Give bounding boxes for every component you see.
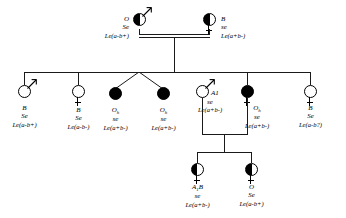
symbol-open-circle: [196, 85, 209, 98]
sibling-drop-g3-2: [251, 152, 252, 163]
sibling-drop-6: [247, 72, 248, 85]
symbol-half-filled-circle: [133, 13, 146, 26]
label-g1-father: O Se Le(a-b+): [88, 15, 129, 40]
person-g2-child-7[interactable]: [304, 85, 317, 98]
label-g2-child-5: se Le(a+b-): [184, 98, 236, 115]
symbol-filled-circle: [241, 85, 254, 98]
mating-drop-g2-male: [202, 98, 203, 135]
person-g2-child-1[interactable]: [18, 85, 31, 98]
symbol-half-filled-circle: [191, 163, 204, 176]
person-g1-mother[interactable]: [203, 13, 216, 26]
label-g3-child-1: A1B se Le(a+b-): [173, 183, 222, 209]
label-g3-child-2: O Se Le(a-b+): [227, 183, 276, 208]
mating-line-g2: [202, 134, 248, 135]
label-g2-child-7: B Se Le(a-b?): [286, 104, 335, 129]
person-g2-child-6[interactable]: [241, 85, 254, 98]
person-g3-child-1[interactable]: [191, 163, 204, 176]
descent-line-g1: [174, 37, 175, 72]
sibling-drop-1: [24, 72, 25, 85]
symbol-filled-circle: [109, 87, 122, 100]
label-g1-mother: B se Le(a+b-): [221, 15, 267, 40]
person-g2-child-3[interactable]: [109, 87, 122, 100]
symbol-half-filled-circle: [203, 13, 216, 26]
sibling-drop-7: [310, 72, 311, 85]
symbol-open-circle: [72, 85, 85, 98]
sibling-drop-2: [78, 72, 79, 85]
symbol-open-circle: [18, 85, 31, 98]
label-g2-child-5-abo: A1: [211, 89, 219, 97]
symbol-filled-circle: [157, 87, 170, 100]
mating-line-upper: [139, 34, 210, 35]
sibling-drop-g3-1: [197, 152, 198, 163]
person-g2-child-5[interactable]: [196, 85, 209, 98]
label-g2-child-3: Oh se Le(a+b-): [91, 106, 140, 132]
person-g3-child-2[interactable]: [245, 163, 258, 176]
person-g2-child-4[interactable]: [157, 87, 170, 100]
pedigree-chart: O Se Le(a-b+) B se Le(a+b-) B Se Le(a-b+…: [0, 0, 346, 218]
label-g2-child-6: Oh se Le(a+b-): [231, 104, 283, 130]
symbol-half-filled-circle: [245, 163, 258, 176]
person-g1-father[interactable]: [133, 13, 146, 26]
label-g2-child-1: B Se Le(a-b+): [0, 104, 49, 129]
female-cross-icon: [77, 97, 79, 106]
person-g2-child-2[interactable]: [72, 85, 85, 98]
symbol-open-circle: [304, 85, 317, 98]
sibship-bar-g3: [197, 152, 252, 153]
label-g2-child-4: Oh se Le(a+b-): [139, 106, 188, 132]
descent-line-g2: [224, 134, 225, 153]
mating-drop-g2-female: [247, 98, 248, 135]
